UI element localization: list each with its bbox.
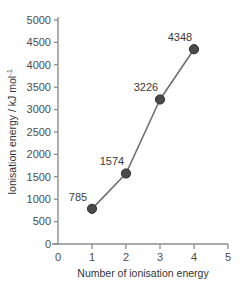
data-point-label: 1574 (100, 155, 124, 167)
y-tick-label: 5000 (27, 14, 51, 26)
chart-canvas: 0500100015002000250030003500400045005000… (0, 0, 244, 285)
x-tick-label: 2 (123, 251, 129, 263)
y-tick-label: 500 (33, 215, 51, 227)
data-point-marker (87, 204, 96, 213)
y-axis-title: Ionisation energy / kJ mol-1 (5, 69, 18, 195)
y-axis-title-superscript: -1 (5, 69, 14, 76)
ionisation-energy-chart: 0500100015002000250030003500400045005000… (0, 0, 244, 285)
y-tick-label: 3000 (27, 103, 51, 115)
data-point-label: 3226 (134, 81, 158, 93)
y-tick-label: 1000 (27, 193, 51, 205)
x-tick-label: 1 (89, 251, 95, 263)
x-tick-label: 4 (191, 251, 197, 263)
y-tick-label: 4500 (27, 36, 51, 48)
data-point-marker (189, 45, 198, 54)
y-tick-label: 3500 (27, 81, 51, 93)
x-axis-title: Number of ionisation energy (77, 267, 209, 279)
x-tick-label: 5 (225, 251, 231, 263)
y-tick-label: 2000 (27, 148, 51, 160)
y-tick-label: 1500 (27, 171, 51, 183)
x-tick-label: 3 (157, 251, 163, 263)
y-tick-label: 0 (45, 238, 51, 250)
y-tick-label: 4000 (27, 59, 51, 71)
data-point-label: 4348 (168, 31, 192, 43)
data-point-label: 785 (69, 191, 87, 203)
data-point-marker (121, 169, 130, 178)
x-tick-label: 0 (55, 251, 61, 263)
data-line (92, 49, 194, 209)
y-tick-label: 2500 (27, 126, 51, 138)
data-point-marker (155, 95, 164, 104)
